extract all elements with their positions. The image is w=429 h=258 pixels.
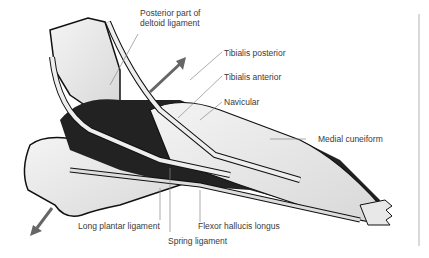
- downward-pull-arrow-head: [30, 225, 42, 236]
- label-long-plantar-ligament: Long plantar ligament: [78, 221, 160, 231]
- foot-anatomy-figure: Posterior part of deltoid ligament Tibia…: [0, 0, 429, 258]
- label-posterior-deltoid-line2: deltoid ligament: [140, 18, 200, 28]
- foot-illustration: [0, 0, 429, 258]
- upward-pull-arrow-shaft: [150, 62, 182, 92]
- downward-pull-arrow-shaft: [37, 208, 52, 228]
- label-spring-ligament: Spring ligament: [168, 236, 227, 246]
- label-flexor-hallucis-longus: Flexor hallucis longus: [198, 221, 280, 231]
- label-tibialis-posterior: Tibialis posterior: [224, 48, 286, 58]
- label-navicular: Navicular: [224, 97, 259, 107]
- label-tibialis-anterior: Tibialis anterior: [224, 72, 281, 82]
- label-posterior-deltoid-line1: Posterior part of: [140, 8, 200, 18]
- vertical-divider: [418, 14, 420, 246]
- label-medial-cuneiform: Medial cuneiform: [318, 134, 383, 144]
